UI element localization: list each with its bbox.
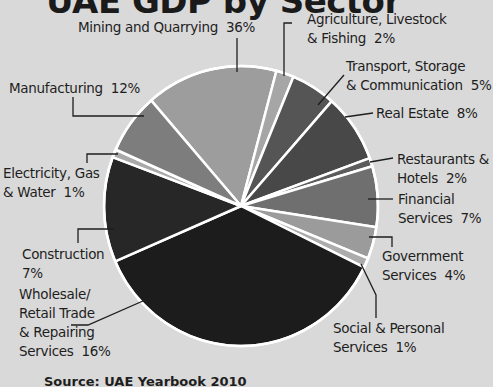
leader-manufacturing: [73, 97, 144, 116]
pie-slices: [104, 66, 378, 346]
label-manufacturing: Manufacturing 12%: [9, 79, 140, 98]
label-electricity: Electricity, Gas & Water 1%: [3, 164, 100, 202]
label-transport: Transport, Storage & Communication 5%: [346, 57, 492, 95]
leader-social: [361, 264, 376, 318]
label-government: Government Services 4%: [382, 247, 465, 285]
label-financial: Financial Services 7%: [398, 190, 481, 228]
label-agriculture: Agriculture, Livestock & Fishing 2%: [307, 10, 447, 48]
leader-agriculture: [284, 23, 292, 76]
label-real-estate: Real Estate 8%: [376, 104, 478, 123]
leader-real-estate: [345, 113, 373, 117]
label-wholesale: Wholesale/ Retail Trade & Repairing Serv…: [19, 285, 111, 361]
source-note: Source: UAE Yearbook 2010: [44, 374, 247, 387]
label-restaurants: Restaurants & Hotels 2%: [397, 150, 489, 188]
label-construction: Construction 7%: [22, 245, 104, 283]
label-social: Social & Personal Services 1%: [333, 319, 444, 357]
leader-restaurants: [370, 158, 393, 162]
label-mining: Mining and Quarrying 36%: [78, 18, 255, 37]
